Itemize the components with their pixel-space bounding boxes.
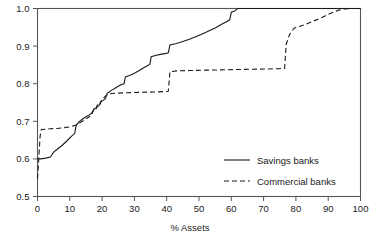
chart-figure: 0102030405060708090100 0.50.60.70.80.91.… xyxy=(0,0,380,245)
x-tick-label-50: 50 xyxy=(194,203,205,214)
x-tick-label-40: 40 xyxy=(161,203,172,214)
plot-frame xyxy=(38,9,361,197)
x-axis-title: % Assets xyxy=(170,222,209,233)
series-line-savings-banks xyxy=(38,9,361,159)
y-tick-label-0.9: 0.9 xyxy=(16,41,29,52)
x-tick-label-10: 10 xyxy=(65,203,76,214)
data-series-group xyxy=(38,9,361,179)
x-axis-tick-labels: 0102030405060708090100 xyxy=(35,203,369,214)
legend-label-savings-banks: Savings banks xyxy=(257,155,319,166)
x-tick-label-60: 60 xyxy=(226,203,237,214)
x-tick-label-90: 90 xyxy=(323,203,334,214)
ecdf-line-chart: 0102030405060708090100 0.50.60.70.80.91.… xyxy=(0,0,380,245)
series-line-commercial-banks xyxy=(38,9,361,179)
y-tick-label-0.7: 0.7 xyxy=(16,116,29,127)
x-tick-label-80: 80 xyxy=(291,203,302,214)
x-tick-label-0: 0 xyxy=(35,203,40,214)
x-tick-label-70: 70 xyxy=(258,203,269,214)
x-tick-label-20: 20 xyxy=(97,203,108,214)
y-axis-tick-labels: 0.50.60.70.80.91.0 xyxy=(16,3,29,202)
y-tick-label-1.0: 1.0 xyxy=(16,3,29,14)
x-tick-label-30: 30 xyxy=(129,203,140,214)
x-tick-label-100: 100 xyxy=(353,203,369,214)
y-tick-label-0.6: 0.6 xyxy=(16,153,29,164)
x-axis-ticks xyxy=(38,197,361,202)
chart-legend: Savings banksCommercial banks xyxy=(224,155,336,187)
legend-label-commercial-banks: Commercial banks xyxy=(257,176,336,187)
y-tick-label-0.8: 0.8 xyxy=(16,78,29,89)
y-axis-ticks xyxy=(33,9,38,197)
y-tick-label-0.5: 0.5 xyxy=(16,191,29,202)
